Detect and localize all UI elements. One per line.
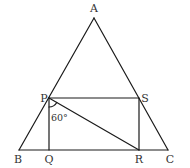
label-r: R <box>135 153 144 166</box>
angle-arc-p <box>49 103 57 108</box>
label-c: C <box>166 153 174 166</box>
label-p: P <box>40 92 48 105</box>
label-a: A <box>89 2 99 15</box>
label-b: B <box>14 153 22 166</box>
angle-label-60: 60° <box>51 112 68 123</box>
diagram-canvas: A B C P S Q R 60° <box>0 0 190 168</box>
diagonal-pr <box>49 98 139 150</box>
label-s: S <box>141 92 149 105</box>
side-ab <box>19 18 94 150</box>
geometry-diagram: A B C P S Q R 60° <box>0 0 190 168</box>
label-q: Q <box>44 153 53 166</box>
